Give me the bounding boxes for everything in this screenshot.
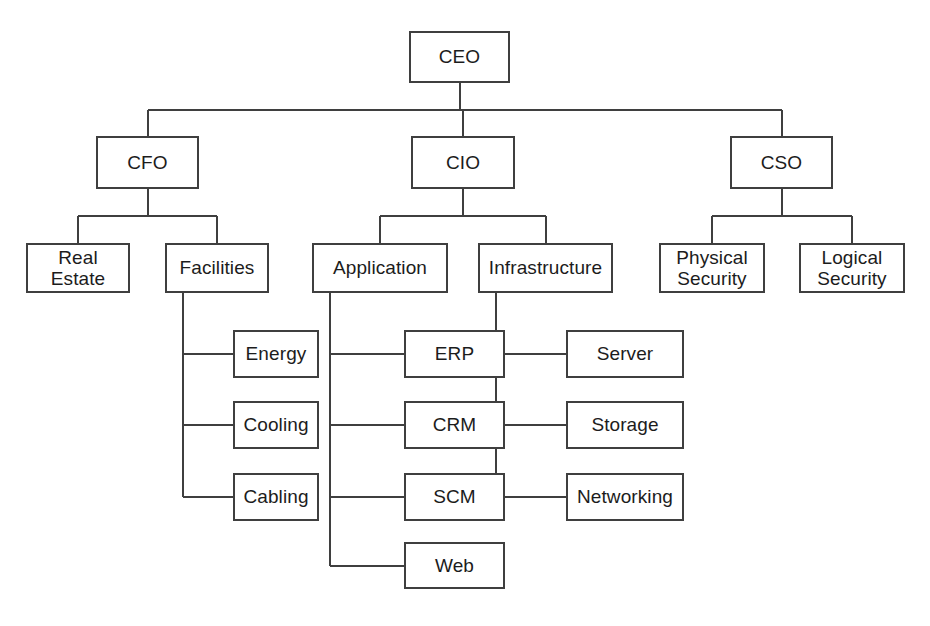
node-label-cooling: Cooling bbox=[241, 414, 310, 435]
node-label-infrastructure: Infrastructure bbox=[487, 257, 604, 278]
node-physical-security[interactable]: Physical Security bbox=[659, 243, 765, 293]
node-logical-security[interactable]: Logical Security bbox=[799, 243, 905, 293]
node-server[interactable]: Server bbox=[566, 330, 684, 378]
node-infrastructure[interactable]: Infrastructure bbox=[478, 243, 613, 293]
figure-caption bbox=[0, 608, 930, 626]
node-label-facilities: Facilities bbox=[178, 257, 257, 278]
node-label-cfo: CFO bbox=[125, 152, 169, 173]
node-label-crm: CRM bbox=[431, 414, 479, 435]
node-label-storage: Storage bbox=[589, 414, 660, 435]
node-cfo[interactable]: CFO bbox=[96, 136, 199, 189]
org-chart-diagram: CEOCFOCIOCSOReal EstateFacilitiesApplica… bbox=[0, 0, 930, 626]
node-cio[interactable]: CIO bbox=[411, 136, 515, 189]
node-label-web: Web bbox=[433, 555, 476, 576]
node-networking[interactable]: Networking bbox=[566, 473, 684, 521]
node-ceo[interactable]: CEO bbox=[409, 31, 510, 83]
node-energy[interactable]: Energy bbox=[233, 330, 319, 378]
node-real-estate[interactable]: Real Estate bbox=[26, 243, 130, 293]
node-erp[interactable]: ERP bbox=[404, 330, 505, 378]
node-label-logical-security: Logical Security bbox=[815, 247, 888, 290]
node-cso[interactable]: CSO bbox=[730, 136, 833, 189]
node-application[interactable]: Application bbox=[312, 243, 448, 293]
node-label-application: Application bbox=[331, 257, 429, 278]
node-crm[interactable]: CRM bbox=[404, 401, 505, 449]
node-web[interactable]: Web bbox=[404, 542, 505, 589]
node-label-cso: CSO bbox=[759, 152, 804, 173]
node-label-networking: Networking bbox=[575, 486, 675, 507]
node-label-energy: Energy bbox=[244, 343, 309, 364]
node-label-erp: ERP bbox=[433, 343, 476, 364]
node-scm[interactable]: SCM bbox=[404, 473, 505, 521]
node-label-physical-security: Physical Security bbox=[674, 247, 750, 290]
node-label-scm: SCM bbox=[431, 486, 478, 507]
node-cabling[interactable]: Cabling bbox=[233, 473, 319, 521]
node-storage[interactable]: Storage bbox=[566, 401, 684, 449]
node-label-server: Server bbox=[595, 343, 656, 364]
node-cooling[interactable]: Cooling bbox=[233, 401, 319, 449]
node-label-cabling: Cabling bbox=[241, 486, 310, 507]
node-label-ceo: CEO bbox=[437, 46, 482, 67]
node-label-cio: CIO bbox=[444, 152, 482, 173]
node-facilities[interactable]: Facilities bbox=[165, 243, 269, 293]
node-label-real-estate: Real Estate bbox=[49, 247, 107, 290]
node-layer: CEOCFOCIOCSOReal EstateFacilitiesApplica… bbox=[0, 0, 930, 626]
